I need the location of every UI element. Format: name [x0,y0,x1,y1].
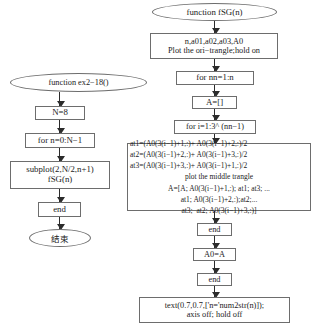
left-terminator: 结束 [29,229,91,247]
inner-loop-box: for i=1:3^ (nn−1) [174,120,256,134]
left-init-label: N=8 [52,108,68,118]
process-line2: at2=(A0(3(i−1)+2,:)+ A0(3(i−1)+3,:)/2 [128,149,310,160]
arrow-outer-end-to-finish [214,286,215,297]
arrow-left-end-to-terminator [59,217,60,229]
right-start-label: function fSG(n) [187,7,243,17]
process-line3: at3=(A0(3(i−1)+3,:)+ A0(3(i−1)+1,:)/2 [128,160,310,171]
arrow-accumulator-to-inner-loop [214,109,215,120]
finish-line2: axis off; hold off [140,310,289,319]
left-body-line2: fSG(n) [11,175,109,185]
accumulator-label: A=[] [206,98,223,108]
finish-line1: text(0.7,0.7,['n='num2str(n)]); [140,301,289,310]
inner-end-label: end [209,225,221,234]
left-body-box: subplot(2,N/2,n+1) fSG(n) [10,161,110,189]
flowchart-canvas: function ex2−18() N=8 for n=0:N−1 subplo… [0,0,314,327]
process-line7: at3; at2; A0(3(i−1)+3,:)] [128,205,310,216]
left-terminator-label: 结束 [51,232,69,244]
left-init-box: N=8 [35,106,85,120]
process-line1: at1=(A0(3(i−1)+1,:)+ A0(3(i−1)+2,:)/2 [128,138,310,149]
arrow-process-to-inner-end [214,211,215,223]
right-init-box: n,a01,a02,a03,A0 Plot the ori−trangle;ho… [150,33,278,59]
left-end-label: end [53,205,66,215]
outer-end-label: end [209,275,221,284]
arrow-left-loop-to-body [59,148,60,161]
outer-loop-label: for nn=1:n [196,73,233,83]
left-start-terminal: function ex2−18() [10,73,147,92]
process-line4: plot the middle trangle [128,171,310,182]
left-start-label: function ex2−18() [48,78,108,87]
assign-label: A0=A [204,250,225,259]
right-init-line1: n,a01,a02,a03,A0 [151,37,277,46]
arrow-left-init-to-loop [59,120,60,133]
arrow-inner-end-to-assign [214,236,215,248]
left-end-box: end [38,202,81,217]
right-start-terminal: function fSG(n) [152,3,277,21]
arrow-right-start-to-init [214,21,215,33]
process-line6: at1; A0(3(i−1)+2,:);at2;... [128,194,310,205]
left-loop-box: for n=0:N−1 [25,133,95,148]
inner-loop-label: for i=1:3^ (nn−1) [186,122,244,131]
arrow-left-start-to-init [59,92,60,106]
left-loop-label: for n=0:N−1 [38,136,82,146]
finish-box: text(0.7,0.7,['n='num2str(n)]); axis off… [139,297,290,323]
arrow-left-body-to-end [59,189,60,202]
arrow-right-init-to-outer-loop [214,59,215,71]
arrow-outer-loop-to-accumulator [214,85,215,96]
process-line5: A=[A; A0(3(i−1)+1,:); at1; at3; ... [128,183,310,194]
arrow-assign-to-outer-end [214,261,215,273]
process-box: at1=(A0(3(i−1)+1,:)+ A0(3(i−1)+2,:)/2 at… [127,143,311,211]
accumulator-box: A=[] [192,96,237,109]
outer-loop-box: for nn=1:n [176,71,254,85]
assign-box: A0=A [193,248,236,261]
right-init-line2: Plot the ori−trangle;hold on [151,46,277,55]
inner-end-box: end [197,223,232,236]
outer-end-box: end [197,273,232,286]
